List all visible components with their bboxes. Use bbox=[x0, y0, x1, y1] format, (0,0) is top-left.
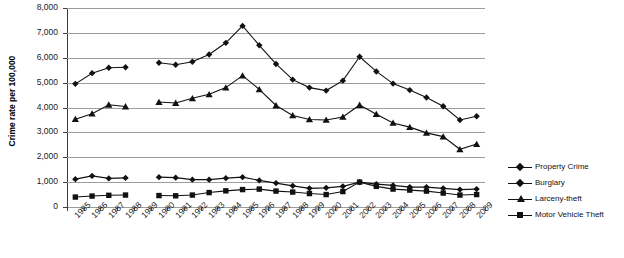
data-point-marker bbox=[390, 186, 395, 191]
data-point-marker bbox=[357, 179, 362, 184]
data-point-marker bbox=[206, 176, 212, 182]
x-tick-mark bbox=[335, 207, 336, 211]
data-point-marker bbox=[156, 174, 162, 180]
x-tick-mark bbox=[452, 207, 453, 211]
data-point-marker bbox=[474, 192, 479, 197]
data-point-marker bbox=[106, 65, 112, 71]
data-point-marker bbox=[273, 180, 279, 186]
x-tick-mark bbox=[284, 207, 285, 211]
data-point-marker bbox=[172, 174, 178, 180]
data-point-marker bbox=[156, 60, 162, 66]
data-point-marker bbox=[340, 77, 346, 83]
data-point-marker bbox=[289, 112, 296, 118]
data-point-marker bbox=[223, 188, 228, 193]
series-larceny-theft bbox=[72, 72, 480, 152]
data-point-marker bbox=[306, 185, 312, 191]
data-point-marker bbox=[273, 188, 278, 193]
x-tick-mark bbox=[385, 207, 386, 211]
x-tick-mark bbox=[167, 207, 168, 211]
data-point-marker bbox=[73, 194, 78, 199]
series-line bbox=[75, 176, 125, 179]
data-point-marker bbox=[189, 176, 195, 182]
x-tick-mark bbox=[351, 207, 352, 211]
legend-item-label: Larceny-theft bbox=[535, 194, 582, 204]
series-line bbox=[75, 195, 125, 197]
x-tick-mark bbox=[201, 207, 202, 211]
x-tick-mark bbox=[435, 207, 436, 211]
x-tick-mark bbox=[268, 207, 269, 211]
series-line bbox=[159, 26, 477, 120]
x-tick-mark bbox=[468, 207, 469, 211]
data-point-marker bbox=[206, 91, 213, 97]
data-point-marker bbox=[239, 72, 246, 78]
data-point-marker bbox=[306, 84, 312, 90]
data-point-marker bbox=[89, 173, 95, 179]
x-tick-mark bbox=[251, 207, 252, 211]
x-tick-mark bbox=[234, 207, 235, 211]
data-point-marker bbox=[473, 113, 479, 119]
legend-item[interactable]: Larceny-theft bbox=[508, 192, 604, 206]
data-point-marker bbox=[441, 190, 446, 195]
data-point-marker bbox=[457, 186, 463, 192]
legend-item-label: Motor Vehicle Theft bbox=[535, 210, 604, 220]
data-point-marker bbox=[122, 175, 128, 181]
data-point-marker bbox=[323, 87, 329, 93]
series-layer bbox=[67, 8, 485, 207]
x-tick-mark bbox=[117, 207, 118, 211]
data-point-marker bbox=[407, 187, 412, 192]
series-line bbox=[75, 67, 125, 84]
x-tick-mark bbox=[217, 207, 218, 211]
x-tick-mark bbox=[84, 207, 85, 211]
data-point-marker bbox=[457, 192, 462, 197]
y-tick-label: 5,000 bbox=[0, 77, 58, 87]
x-tick-mark bbox=[67, 207, 68, 211]
legend-item[interactable]: Burglary bbox=[508, 176, 604, 190]
legend-item-label: Property Crime bbox=[535, 162, 589, 172]
x-tick-mark bbox=[418, 207, 419, 211]
data-point-marker bbox=[106, 175, 112, 181]
x-tick-mark bbox=[100, 207, 101, 211]
data-point-marker bbox=[223, 175, 229, 181]
legend-item-label: Burglary bbox=[535, 178, 565, 188]
legend-marker-diamond-icon bbox=[508, 162, 532, 172]
y-tick-label: 3,000 bbox=[0, 126, 58, 136]
data-point-marker bbox=[106, 193, 111, 198]
data-point-marker bbox=[340, 189, 345, 194]
plot-area bbox=[67, 8, 485, 207]
data-point-marker bbox=[389, 120, 396, 126]
legend-marker-triangle-icon bbox=[508, 194, 532, 204]
data-point-marker bbox=[239, 174, 245, 180]
data-point-marker bbox=[356, 102, 363, 108]
data-point-marker bbox=[407, 87, 413, 93]
legend-item[interactable]: Property Crime bbox=[508, 160, 604, 174]
y-tick-label: 4,000 bbox=[0, 102, 58, 112]
data-point-marker bbox=[206, 51, 212, 57]
y-tick-label: 6,000 bbox=[0, 52, 58, 62]
x-tick-mark bbox=[134, 207, 135, 211]
data-point-marker bbox=[240, 187, 245, 192]
data-point-marker bbox=[290, 189, 295, 194]
series-line bbox=[75, 105, 125, 119]
series-line bbox=[159, 76, 477, 150]
y-tick-label: 7,000 bbox=[0, 27, 58, 37]
y-tick-label: 8,000 bbox=[0, 2, 58, 12]
x-tick-mark bbox=[184, 207, 185, 211]
data-point-marker bbox=[340, 183, 346, 189]
data-point-marker bbox=[257, 186, 262, 191]
legend-item[interactable]: Motor Vehicle Theft bbox=[508, 208, 604, 222]
data-point-marker bbox=[206, 190, 211, 195]
data-point-marker bbox=[473, 141, 480, 147]
data-point-marker bbox=[89, 193, 94, 198]
y-tick-label: 2,000 bbox=[0, 151, 58, 161]
x-tick-mark bbox=[368, 207, 369, 211]
x-tick-mark bbox=[318, 207, 319, 211]
data-point-marker bbox=[190, 192, 195, 197]
data-point-marker bbox=[473, 186, 479, 192]
y-tick-label: 1,000 bbox=[0, 176, 58, 186]
data-point-marker bbox=[256, 177, 262, 183]
chart-legend: Property CrimeBurglaryLarceny-theftMotor… bbox=[508, 160, 604, 224]
legend-marker-square-icon bbox=[508, 210, 532, 220]
y-tick-label: 0 bbox=[0, 201, 58, 211]
data-point-marker bbox=[173, 193, 178, 198]
x-tick-mark bbox=[151, 207, 152, 211]
